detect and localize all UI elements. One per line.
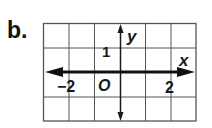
x-tick-label-neg2: −2 [57, 78, 75, 95]
x-axis-label: x [178, 51, 190, 70]
y-axis-label: y [126, 27, 138, 46]
y-tick-label-1: 1 [102, 43, 110, 60]
origin-label: O [98, 77, 111, 94]
x-tick-label-2: 2 [165, 79, 174, 96]
coordinate-graph: y x 1 −2 O 2 [0, 0, 212, 128]
